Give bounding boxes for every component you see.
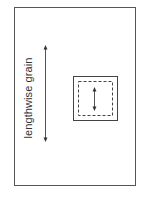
pattern-piece-outline [74, 77, 118, 121]
lengthwise-grain-arrow-icon [44, 45, 48, 142]
seam-line-dashed [79, 82, 113, 116]
pattern-grainline-arrow-icon [93, 87, 97, 111]
diagram-canvas [0, 0, 142, 199]
